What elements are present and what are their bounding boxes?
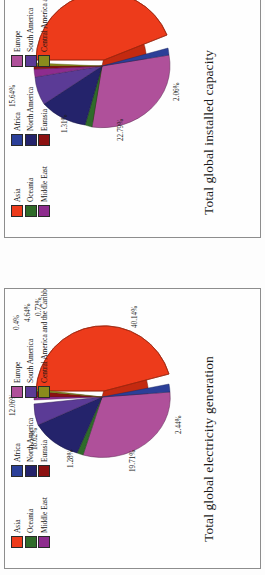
pie-label-pct: 40.14% xyxy=(131,306,139,328)
legend-item-africa[interactable]: Africa xyxy=(11,418,23,477)
legend-swatch-icon xyxy=(25,55,37,67)
legend-item-europe[interactable]: Europe xyxy=(11,288,23,398)
legend-item-europe[interactable]: Europe xyxy=(11,0,23,67)
legend-item-north-america[interactable]: North America xyxy=(25,418,37,477)
legend-column-1: Asia Oceania Middle East xyxy=(11,157,50,217)
panel-electricity-generation: Total global electricity generation xyxy=(4,288,261,569)
legend-label: North America xyxy=(26,418,35,462)
legend-label: South America xyxy=(26,8,35,52)
legend-swatch-icon xyxy=(11,55,23,67)
pie-label-pct: 1.31% xyxy=(61,114,69,133)
legend-item-middle-east[interactable]: Middle East xyxy=(38,497,50,548)
legend-swatch-icon xyxy=(38,134,50,146)
legend-label: Oceania xyxy=(26,509,35,533)
legend-swatch-icon xyxy=(11,386,23,398)
legend-item-south-america[interactable]: South America xyxy=(25,288,37,398)
legend-label: Eurasia xyxy=(40,440,49,462)
legend-item-central-america[interactable]: Central America and the Caribbean xyxy=(38,288,50,398)
legend-label: Central America and the Caribbean xyxy=(40,288,49,383)
legend-column-2: Africa North America Eurasia xyxy=(11,409,50,477)
pie-label-pct: 19.71% xyxy=(129,450,137,472)
legend-label: Central America and the Caribbean xyxy=(40,0,49,52)
legend-label: Africa xyxy=(13,443,22,462)
legend-swatch-icon xyxy=(11,205,23,217)
legend-item-middle-east[interactable]: Middle East xyxy=(38,166,50,217)
legend-label: Middle East xyxy=(40,166,49,202)
legend-swatch-icon xyxy=(38,386,50,398)
legend-electricity-generation: Asia Oceania Middle East xyxy=(11,288,50,548)
legend-row: Asia Oceania Middle East xyxy=(11,0,50,217)
legend-swatch-icon xyxy=(38,465,50,477)
legend-installed-capacity: Asia Oceania Middle East xyxy=(11,0,50,217)
legend-label: Europe xyxy=(13,362,22,383)
legend-label: Eurasia xyxy=(40,109,49,131)
legend-swatch-icon xyxy=(11,134,23,146)
pie-label-pct: 22.79% xyxy=(117,119,125,141)
legend-swatch-icon xyxy=(38,55,50,67)
legend-swatch-icon xyxy=(25,536,37,548)
legend-swatch-icon xyxy=(11,536,23,548)
legend-column-3: Europe South America Central America and… xyxy=(11,0,50,67)
scanned-figure-page: Total global installed capacity xyxy=(0,0,265,575)
legend-item-asia[interactable]: Asia xyxy=(11,497,23,548)
legend-item-oceania[interactable]: Oceania xyxy=(25,166,37,217)
legend-item-eurasia[interactable]: Eurasia xyxy=(38,418,50,477)
page-title-installed-capacity: Total global installed capacity xyxy=(201,50,217,215)
legend-item-central-america[interactable]: Central America and the Caribbean xyxy=(38,0,50,67)
legend-item-asia[interactable]: Asia xyxy=(11,166,23,217)
legend-label: Oceania xyxy=(26,178,35,202)
legend-swatch-icon xyxy=(38,205,50,217)
legend-label: Asia xyxy=(13,188,22,202)
legend-item-eurasia[interactable]: Eurasia xyxy=(38,87,50,146)
legend-swatch-icon xyxy=(25,386,37,398)
pie-label-pct: 2.44% xyxy=(175,415,183,434)
legend-swatch-icon xyxy=(25,205,37,217)
panel-installed-capacity: Total global installed capacity xyxy=(4,0,261,238)
pie-label-pct: 1.28% xyxy=(67,449,75,468)
legend-swatch-icon xyxy=(38,536,50,548)
legend-column-1: Asia Oceania Middle East xyxy=(11,488,50,548)
legend-column-3: Europe South America Central America and… xyxy=(11,288,50,398)
legend-swatch-icon xyxy=(25,465,37,477)
legend-label: South America xyxy=(26,339,35,383)
legend-label: Middle East xyxy=(40,497,49,533)
legend-swatch-icon xyxy=(11,465,23,477)
legend-item-oceania[interactable]: Oceania xyxy=(25,497,37,548)
legend-label: North America xyxy=(26,87,35,131)
pie-label-pct: 2.06% xyxy=(173,82,181,101)
legend-item-south-america[interactable]: South America xyxy=(25,0,37,67)
legend-label: Asia xyxy=(13,519,22,533)
legend-item-africa[interactable]: Africa xyxy=(11,87,23,146)
legend-label: Africa xyxy=(13,112,22,131)
page-title-electricity-generation: Total global electricity generation xyxy=(201,356,217,542)
legend-label: Europe xyxy=(13,31,22,52)
legend-row: Asia Oceania Middle East xyxy=(11,288,50,548)
legend-column-2: Africa North America Eurasia xyxy=(11,78,50,146)
legend-item-north-america[interactable]: North America xyxy=(25,87,37,146)
legend-swatch-icon xyxy=(25,134,37,146)
